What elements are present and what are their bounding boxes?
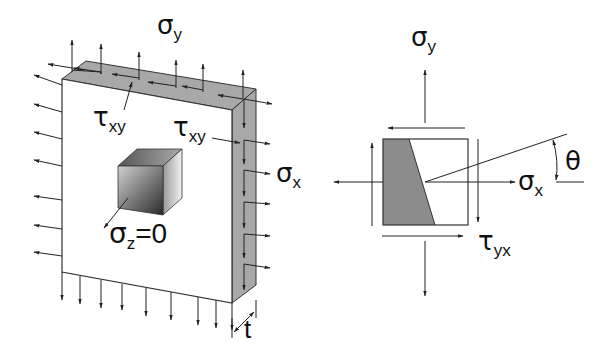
label-thickness: t — [244, 316, 251, 342]
stress-element-figure — [334, 70, 584, 296]
label-sigma-x-left: σx — [276, 160, 301, 191]
label-sigma-y-right: σy — [411, 24, 436, 55]
label-sigma-x-right: σx — [518, 168, 543, 199]
label-theta: θ — [565, 148, 581, 174]
label-sigma-z: σz=0 — [109, 220, 167, 252]
label-tau-xy-right: τxy — [173, 114, 206, 145]
label-tau-xy-top: τxy — [93, 104, 126, 135]
plate-figure — [34, 40, 272, 338]
label-sigma-y-left: σy — [157, 12, 182, 43]
label-tau-yx: τyx — [478, 228, 511, 259]
